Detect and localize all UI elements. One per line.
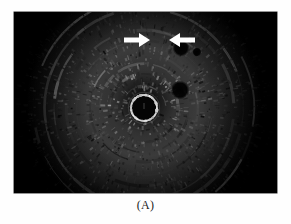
figure-caption: (A) xyxy=(0,198,291,212)
ultrasound-image-frame xyxy=(14,12,277,193)
figure-root: (A) xyxy=(0,0,291,224)
ultrasound-scan-canvas xyxy=(14,12,277,193)
